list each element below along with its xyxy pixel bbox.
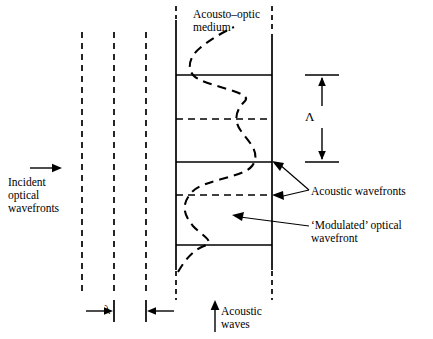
modulated-wavefront-leader-line (240, 217, 309, 226)
acoustic-wavefronts-label: Acoustic wavefronts (311, 185, 406, 198)
acousto-optic-medium-label: Acousto–optic medium (193, 8, 260, 34)
acoustic-wavefronts-leader-lower-head (272, 191, 284, 200)
acoustic-wavefronts-leader-upper (279, 164, 309, 190)
modulated-optical-wavefront-curve (178, 27, 255, 272)
acousto-optic-diagram-svg (0, 0, 433, 339)
incident-arrow-head (52, 164, 62, 172)
lambda-big-arrowhead-down (318, 151, 326, 160)
incident-optical-wavefronts-label: Incident optical wavefronts (8, 176, 59, 215)
acoustic-waves-arrow (211, 300, 220, 332)
acoustic-wavelength-symbol: Λ (305, 110, 314, 123)
modulated-wavefront-leader (232, 212, 309, 226)
lambda-small-arrowhead-left (147, 307, 156, 315)
acoustic-waves-arrow-head (211, 300, 220, 310)
acoustic-midplane-dashed-lines (176, 119, 272, 195)
incident-optical-wavefront-lines (82, 32, 146, 296)
modulated-optical-wavefront-label: ‘Modulated’ optical wavefront (311, 219, 402, 245)
acoustic-wavefronts-leaders (272, 161, 309, 200)
incident-direction-arrow (30, 164, 62, 172)
optical-wavelength-marker (86, 300, 174, 322)
optical-wavelength-symbol: λ (104, 303, 110, 316)
figure-canvas: Acousto–optic medium Incident optical wa… (0, 0, 433, 339)
acoustic-waves-label: Acoustic waves (221, 305, 262, 331)
lambda-big-arrowhead-up (318, 77, 326, 86)
modulated-wavefront-leader-head (232, 212, 244, 221)
acoustic-wavefronts-leader-upper-head (272, 161, 284, 171)
